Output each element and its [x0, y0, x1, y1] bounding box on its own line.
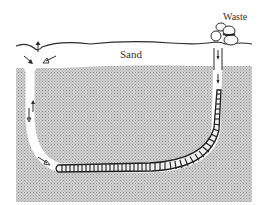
inflow-arrow-right-icon — [43, 56, 56, 63]
lugworm-burrow-diagram: Sand Waste — [0, 0, 264, 205]
water-flow-arrow-up-icon — [36, 41, 41, 52]
sand-label: Sand — [120, 48, 142, 60]
diagram-graphic — [0, 0, 264, 205]
waste-label: Waste — [223, 11, 247, 22]
